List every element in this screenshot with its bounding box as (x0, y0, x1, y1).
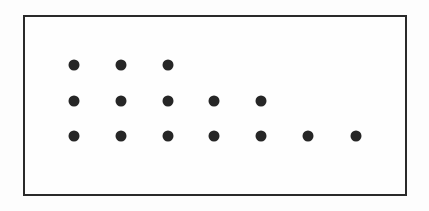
dot-row-2-col-4 (209, 96, 220, 107)
dot-row-1-col-2 (116, 60, 127, 71)
dot-row-3-col-3 (163, 131, 174, 142)
dot-row-3-col-6 (303, 131, 314, 142)
dot-row-2-col-2 (116, 96, 127, 107)
dot-row-2-col-1 (69, 96, 80, 107)
dot-row-2-col-5 (256, 96, 267, 107)
dot-row-3-col-5 (256, 131, 267, 142)
dot-row-1-col-3 (163, 60, 174, 71)
dot-row-3-col-4 (209, 131, 220, 142)
dot-row-3-col-1 (69, 131, 80, 142)
dot-row-3-col-7 (351, 131, 362, 142)
dot-row-2-col-3 (163, 96, 174, 107)
dot-row-3-col-2 (116, 131, 127, 142)
dot-row-1-col-1 (69, 60, 80, 71)
